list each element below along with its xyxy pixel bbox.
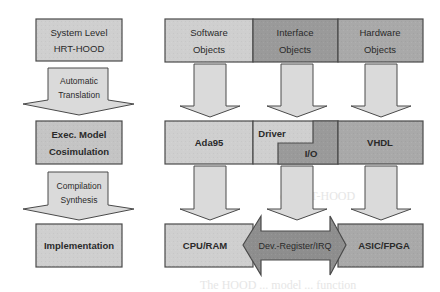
compilation-synthesis-arrow: Compilation Synthesis [23,172,134,220]
box-label-line2: Cosimulation [49,146,109,157]
hardware-down-arrow [351,64,411,117]
svg-text:CPU/RAM: CPU/RAM [183,240,227,251]
arrow-label-line2: Synthesis [61,195,98,205]
io-label: I/O [305,148,318,159]
software-down-arrow [180,64,240,117]
svg-text:Objects: Objects [279,44,311,55]
svg-text:ASIC/FPGA: ASIC/FPGA [358,240,410,251]
svg-text:Objects: Objects [193,44,225,55]
implementation-row: CPU/RAM ASIC/FPGA Dev.-Register/IRQ [165,216,423,275]
driver-label: Driver [258,128,286,139]
arrow-label-line1: Automatic [60,76,99,86]
svg-text:VHDL: VHDL [367,137,393,148]
interface-objects-box: Interface Objects [253,19,338,62]
exec-model-box: Exec. Model Cosimulation [36,121,122,164]
left-column: System Level HRT-HOOD Automatic Translat… [23,19,134,267]
arrow-label-line1: Compilation [57,181,102,191]
software-down-arrow-2 [180,166,240,220]
model-row: Ada95 Driver I/O VHDL [165,121,423,164]
svg-text:Interface: Interface [277,27,314,38]
implementation-box: Implementation [36,224,122,267]
dev-register-irq-double-arrow: Dev.-Register/IRQ [243,216,346,275]
automatic-translation-arrow: Automatic Translation [23,68,134,115]
svg-text:Objects: Objects [364,44,396,55]
svg-text:Hardware: Hardware [359,27,400,38]
middle-to-bottom-arrows [180,166,411,220]
objects-row: Software Objects Interface Objects Hardw… [165,19,423,62]
ada95-box: Ada95 [165,121,253,164]
arrow-label-line2: Translation [58,90,100,100]
cpu-ram-box: CPU/RAM [165,224,253,267]
asic-fpga-box: ASIC/FPGA [338,224,423,267]
hardware-objects-box: Hardware Objects [338,19,423,62]
box-label: Implementation [44,240,114,251]
svg-text:Ada95: Ada95 [195,137,224,148]
vhdl-box: VHDL [338,121,423,164]
top-to-middle-arrows [180,64,411,117]
box-label-line1: System Level [50,27,107,38]
hardware-down-arrow-2 [351,166,411,220]
box-label-line2: HRT-HOOD [54,43,105,54]
software-objects-box: Software Objects [165,19,253,62]
box-label-line1: Exec. Model [52,129,107,140]
system-level-box: System Level HRT-HOOD [36,19,122,61]
interface-down-arrow [267,64,327,117]
svg-text:The HOOD ... model ... functio: The HOOD ... model ... function [200,278,356,292]
svg-text:Software: Software [190,27,228,38]
svg-text:Dev.-Register/IRQ: Dev.-Register/IRQ [259,241,332,251]
design-flow-diagram: ed HRT-HOOD for embedded system... The H… [0,0,440,292]
driver-io-box: Driver I/O [253,121,338,164]
